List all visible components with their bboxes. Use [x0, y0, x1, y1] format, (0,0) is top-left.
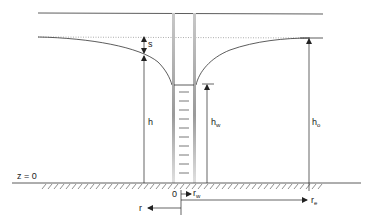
well-wall-left [172, 13, 175, 183]
s-label: s [148, 40, 153, 49]
rw-label-sub: w [196, 193, 200, 199]
h-label: h [148, 118, 153, 127]
hw-label-sub: w [216, 122, 220, 128]
ground-hatching [42, 184, 322, 189]
drawdown-curve-right [196, 38, 310, 85]
re-label-sub: e [314, 200, 317, 206]
rw-label: rw [193, 189, 200, 199]
origin-label: 0 [172, 190, 177, 199]
r-label: r [139, 204, 142, 213]
ho-label-sub: o [317, 122, 320, 128]
well-water-dashes [179, 92, 189, 173]
ho-label: ho [312, 118, 320, 128]
top-surface-line [38, 13, 323, 14]
datum-label: z = 0 [17, 172, 37, 181]
hw-label: hw [211, 118, 220, 128]
re-label: re [311, 196, 317, 206]
well-wall-right [193, 13, 196, 183]
well-drawdown-diagram [0, 0, 373, 223]
